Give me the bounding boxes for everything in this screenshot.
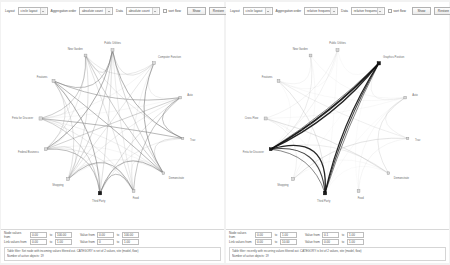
checkbox-box (163, 9, 167, 13)
data-select[interactable]: relative frequency (351, 7, 385, 15)
graph-node-label: New Garden (68, 47, 84, 51)
sort-flow-label: sort flow (168, 9, 181, 13)
value-from-input[interactable]: 0.1 (322, 232, 339, 238)
data-label: Data (341, 9, 348, 13)
graph-node-label: Public Utilities (104, 41, 121, 45)
value2-to-input[interactable]: 1.00 (122, 239, 139, 245)
value-to-input[interactable]: 100.00 (122, 232, 139, 238)
graph-node-label: Demonstrate (169, 176, 185, 180)
value2-from-input[interactable]: 0.00 (322, 239, 339, 245)
show-button[interactable]: Show (412, 7, 431, 16)
aggregation-select[interactable]: relative frequency (304, 7, 338, 15)
chevron-down-icon (40, 8, 46, 14)
graph-node[interactable] (152, 62, 155, 65)
graph-node[interactable] (84, 54, 87, 57)
graph-node[interactable] (377, 62, 380, 65)
graph-canvas-right[interactable]: Public UtilitiesGraphics PositionAutoTra… (226, 20, 449, 229)
node-link-diagram-left[interactable]: Public UtilitiesComputer FunctionAutoTra… (1, 20, 224, 229)
restore-button[interactable]: Restore (434, 7, 450, 16)
graph-node[interactable] (179, 96, 182, 99)
graph-node[interactable] (44, 148, 47, 151)
checkbox-box (388, 9, 392, 13)
graph-node[interactable] (309, 54, 312, 57)
graph-node[interactable] (269, 148, 272, 151)
sort-flow-checkbox[interactable]: sort flow (388, 9, 406, 13)
filter-note-line2: Number of active objects: 19 (232, 254, 443, 259)
graph-canvas-left[interactable]: Public UtilitiesComputer FunctionAutoTra… (1, 20, 224, 229)
graph-node[interactable] (357, 190, 360, 193)
link-to-label: to (274, 240, 278, 244)
link-to-input[interactable]: 10.00 (280, 239, 297, 245)
graph-node-label: New Garden (293, 47, 309, 51)
chevron-down-icon (152, 8, 158, 14)
data-select-value: relative frequency (354, 9, 379, 13)
aggregation-select[interactable]: absolute count (79, 7, 113, 15)
graph-node-label: Public Utilities (329, 41, 346, 45)
value2-to-input[interactable]: 1.00 (347, 239, 364, 245)
show-button[interactable]: Show (187, 7, 206, 16)
graph-node[interactable] (67, 177, 70, 180)
graph-node[interactable] (323, 191, 326, 194)
graph-node-label: Auto (187, 93, 193, 97)
link-values-label: Link values from (4, 240, 28, 244)
layout-label: Layout (5, 9, 15, 13)
layout-select-value: circle layout (246, 9, 263, 13)
layout-select[interactable]: circle layout (243, 7, 273, 15)
value-from-input[interactable]: 0.00 (97, 232, 114, 238)
graph-node[interactable] (387, 172, 390, 175)
node-to-input[interactable]: 1.00 (280, 232, 297, 238)
filter-panel-right: Node values from 0.00 to 1.00 Value from… (226, 229, 449, 264)
link-values-label: Link values from (229, 240, 253, 244)
graph-node[interactable] (111, 49, 114, 52)
value-to-input[interactable]: 1.00 (347, 232, 364, 238)
aggregation-select-value: absolute count (82, 9, 103, 13)
panel-left: Layout circle layout Aggregation order a… (1, 2, 224, 263)
data-select-value: absolute count (129, 9, 150, 13)
sort-flow-checkbox[interactable]: sort flow (163, 9, 181, 13)
chevron-down-icon (377, 8, 383, 14)
layout-select[interactable]: circle layout (18, 7, 48, 15)
graph-node[interactable] (132, 190, 135, 193)
filter-note-line2: Number of active objects: 19 (7, 254, 218, 259)
graph-node[interactable] (52, 79, 55, 82)
node-to-input[interactable]: 100.00 (55, 232, 72, 238)
link-to-input[interactable]: 1.00 (55, 239, 72, 245)
chevron-down-icon (265, 8, 271, 14)
node-to-label: to (274, 233, 278, 237)
graph-node[interactable] (292, 177, 295, 180)
graph-node-label: Finta for Discover (12, 116, 33, 120)
graph-node[interactable] (404, 96, 407, 99)
value-to-label: to (116, 233, 120, 237)
graph-node-label: Features (37, 75, 48, 79)
link-to-label: to (49, 240, 53, 244)
graph-node-label: Cross Flow (245, 116, 258, 120)
link-from-input[interactable]: 0.00 (255, 239, 272, 245)
value2-to-label: to (341, 240, 345, 244)
graph-node-label: Trav (190, 138, 196, 142)
node-values-label: Node values from (229, 231, 253, 239)
value2-from-label: Value from (80, 240, 95, 244)
graph-node[interactable] (336, 49, 339, 52)
data-select[interactable]: absolute count (126, 7, 160, 15)
graph-node-label: Finta for Discover (243, 150, 264, 154)
node-layer-right: Public UtilitiesGraphics PositionAutoTra… (243, 41, 421, 203)
node-from-input[interactable]: 0.00 (255, 232, 272, 238)
graph-node[interactable] (162, 172, 165, 175)
node-from-input[interactable]: 0.00 (30, 232, 47, 238)
graph-node[interactable] (98, 191, 101, 194)
toolbar-left: Layout circle layout Aggregation order a… (1, 2, 224, 20)
value2-to-label: to (116, 240, 120, 244)
node-values-row: Node values from 0.00 to 1.00 Value from… (229, 232, 446, 239)
value2-from-input[interactable]: 0 (97, 239, 114, 245)
graph-node[interactable] (406, 137, 408, 139)
graph-node[interactable] (277, 80, 280, 83)
dual-graph-comparison-view: Layout circle layout Aggregation order a… (0, 0, 450, 265)
link-from-input[interactable]: 0.00 (30, 239, 47, 245)
panel-right: Layout circle layout Aggregation order r… (226, 2, 449, 263)
graph-node[interactable] (264, 117, 267, 120)
node-link-diagram-right[interactable]: Public UtilitiesGraphics PositionAutoTra… (226, 20, 449, 229)
node-values-label: Node values from (4, 231, 28, 239)
graph-node[interactable] (181, 137, 183, 139)
layout-select-value: circle layout (21, 9, 38, 13)
graph-node[interactable] (39, 117, 42, 120)
